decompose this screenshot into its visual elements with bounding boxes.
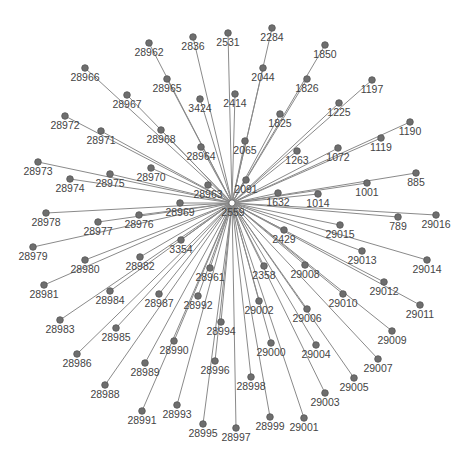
graph-node[interactable]: 29014 <box>412 257 441 275</box>
graph-node[interactable]: 2429 <box>272 227 296 245</box>
graph-node[interactable]: 29003 <box>310 390 339 408</box>
node-label: 28988 <box>90 388 119 400</box>
graph-node[interactable]: 28998 <box>236 374 265 392</box>
graph-node[interactable]: 1826 <box>295 76 319 94</box>
node-label: 28982 <box>125 260 154 272</box>
graph-node[interactable]: 28969 <box>165 200 194 218</box>
graph-node[interactable]: 29009 <box>377 328 406 346</box>
graph-node[interactable]: 28974 <box>55 176 84 194</box>
graph-node[interactable]: 3424 <box>188 96 212 114</box>
graph-node[interactable]: 28985 <box>101 325 130 343</box>
node-label: 28993 <box>162 408 191 420</box>
graph-node[interactable]: 28975 <box>95 171 124 189</box>
graph-node[interactable]: 1197 <box>361 77 384 95</box>
graph-node[interactable]: 28991 <box>127 408 156 426</box>
graph-node[interactable]: 2358 <box>252 263 276 281</box>
node-label: 28996 <box>200 364 229 376</box>
node-label: 28961 <box>195 271 224 283</box>
graph-node[interactable]: 28997 <box>221 425 250 443</box>
graph-node[interactable]: 28977 <box>83 219 112 237</box>
node-label: 3424 <box>188 102 212 114</box>
node-label: 28979 <box>18 250 47 262</box>
graph-node[interactable]: 29013 <box>347 248 376 266</box>
node-label: 28984 <box>95 294 124 306</box>
graph-node[interactable]: 28996 <box>200 358 229 376</box>
node-label: 28970 <box>136 171 165 183</box>
node-label: 29007 <box>363 362 392 374</box>
graph-node[interactable]: 28961 <box>195 265 224 283</box>
graph-node[interactable]: 28995 <box>188 421 217 439</box>
node-label: 29003 <box>310 396 339 408</box>
graph-node[interactable]: 28970 <box>136 165 165 183</box>
node-label: 3354 <box>169 243 193 255</box>
node-label: 2358 <box>252 269 276 281</box>
graph-node[interactable]: 29004 <box>301 342 330 360</box>
graph-node[interactable]: 1072 <box>326 145 350 163</box>
node-label: 28975 <box>95 177 124 189</box>
node-label: 28973 <box>23 165 52 177</box>
graph-node[interactable]: 29007 <box>363 356 392 374</box>
graph-node[interactable]: 29001 <box>289 415 318 433</box>
node-label: 29015 <box>325 228 354 240</box>
graph-node[interactable]: 2836 <box>181 34 205 52</box>
graph-node[interactable]: 29005 <box>339 375 368 393</box>
graph-node[interactable]: 28966 <box>70 65 99 83</box>
graph-node[interactable]: 1014 <box>306 191 330 209</box>
graph-node[interactable]: 1632 <box>266 190 290 208</box>
graph-node[interactable]: 29012 <box>369 279 398 297</box>
graph-node[interactable]: 29006 <box>292 306 321 324</box>
node-label: 1001 <box>355 186 379 198</box>
node-label: 28987 <box>144 297 173 309</box>
graph-node[interactable]: 29000 <box>256 340 285 358</box>
graph-node[interactable]: 29011 <box>406 302 435 320</box>
node-label: 29012 <box>369 285 398 297</box>
graph-node[interactable]: 28992 <box>183 293 212 311</box>
graph-node[interactable]: 28964 <box>186 144 215 162</box>
node-label: 2065 <box>233 144 257 156</box>
graph-node[interactable]: 28984 <box>95 288 124 306</box>
graph-node[interactable]: 28983 <box>45 317 74 335</box>
node-label: 28992 <box>183 299 212 311</box>
node-label: 1263 <box>285 154 309 166</box>
graph-node[interactable]: 28971 <box>86 128 115 146</box>
graph-node[interactable]: 29010 <box>328 291 357 309</box>
graph-node[interactable]: 28980 <box>70 257 99 275</box>
graph-node[interactable]: 885 <box>407 170 425 188</box>
graph-node[interactable]: 1850 <box>313 42 337 60</box>
graph-node[interactable]: 29008 <box>290 262 319 280</box>
graph-node[interactable]: 28968 <box>146 127 175 145</box>
graph-node[interactable]: 2414 <box>223 91 247 109</box>
graph-node[interactable]: 28999 <box>255 414 284 432</box>
node-label: 28998 <box>236 380 265 392</box>
node-label: 29009 <box>377 334 406 346</box>
graph-node[interactable]: 29015 <box>325 222 354 240</box>
graph-node[interactable]: 28981 <box>29 282 58 300</box>
graph-node[interactable]: 28967 <box>112 92 141 110</box>
graph-node[interactable]: 28982 <box>125 254 154 272</box>
node-label: 1190 <box>399 125 422 137</box>
graph-node[interactable]: 1119 <box>370 135 392 153</box>
node-label: 28964 <box>186 150 215 162</box>
graph-node[interactable]: 3354 <box>169 237 193 255</box>
graph-node[interactable]: 28979 <box>18 244 47 262</box>
graph-node[interactable]: 28994 <box>206 319 235 337</box>
graph-node[interactable]: 2065 <box>233 138 257 156</box>
graph-node[interactable]: 28988 <box>90 382 119 400</box>
node-label: 28972 <box>50 119 79 131</box>
graph-node[interactable]: 28962 <box>134 40 163 58</box>
graph-node[interactable]: 28990 <box>159 338 188 356</box>
graph-node[interactable]: 2044 <box>251 65 275 83</box>
graph-node[interactable]: 1225 <box>327 100 351 118</box>
graph-node[interactable]: 28972 <box>50 113 79 131</box>
graph-node[interactable]: 28986 <box>62 351 91 369</box>
graph-node[interactable]: 1190 <box>399 119 422 137</box>
graph-node[interactable]: 2284 <box>260 25 284 43</box>
graph-node[interactable]: 28965 <box>152 76 181 94</box>
graph-node[interactable]: 28993 <box>162 402 191 420</box>
graph-node[interactable]: 28973 <box>23 159 52 177</box>
node-label: 2284 <box>260 31 284 43</box>
graph-node[interactable]: 2531 <box>216 30 240 48</box>
graph-node[interactable]: 28989 <box>130 360 159 378</box>
graph-node[interactable]: 1825 <box>268 111 292 129</box>
node-label: 2414 <box>223 97 247 109</box>
